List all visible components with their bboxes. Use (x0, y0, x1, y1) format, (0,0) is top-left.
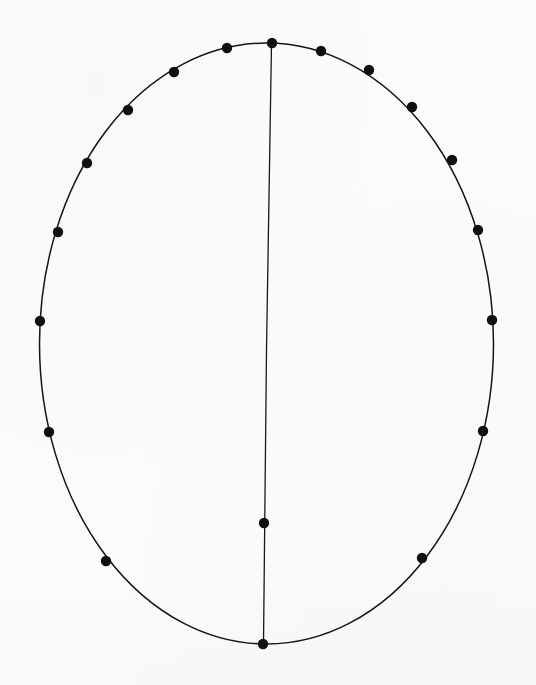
boundary-marker-2 (316, 46, 326, 56)
boundary-marker-17 (169, 67, 179, 77)
boundary-marker-9 (417, 553, 427, 563)
ellipse-point-diagram: A tall ellipse drawn in thin black ink w… (0, 0, 536, 685)
chord-marker-1 (259, 518, 269, 528)
boundary-marker-3 (364, 65, 374, 75)
figure-root: A tall ellipse drawn in thin black ink w… (0, 0, 536, 685)
boundary-marker-16 (123, 105, 133, 115)
boundary-marker-8 (478, 426, 488, 436)
boundary-marker-7 (487, 315, 497, 325)
vertical-chord-group (264, 44, 272, 645)
boundary-marker-10 (258, 639, 268, 649)
boundary-marker-13 (35, 316, 45, 326)
boundary-marker-14 (53, 227, 63, 237)
chord-marker-group (259, 518, 269, 528)
boundary-marker-12 (44, 427, 54, 437)
vertical-chord (264, 44, 272, 645)
boundary-marker-5 (447, 155, 457, 165)
boundary-marker-6 (473, 225, 483, 235)
boundary-marker-11 (101, 556, 111, 566)
boundary-marker-15 (82, 158, 92, 168)
boundary-marker-18 (222, 43, 232, 53)
boundary-marker-4 (407, 102, 417, 112)
boundary-marker-1 (267, 38, 277, 48)
